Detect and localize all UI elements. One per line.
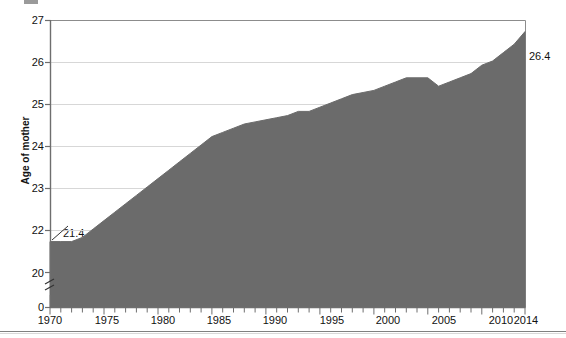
plot-area — [0, 0, 566, 338]
area-series-age-of-mother — [50, 32, 525, 308]
footer-divider — [0, 331, 566, 332]
footer-divider-secondary — [0, 333, 566, 334]
annotation-leader-line — [52, 226, 68, 240]
x-tick-marks — [50, 308, 525, 315]
chart-figure: Age of mother 27 26 25 24 23 22 20 0 197… — [0, 0, 566, 338]
